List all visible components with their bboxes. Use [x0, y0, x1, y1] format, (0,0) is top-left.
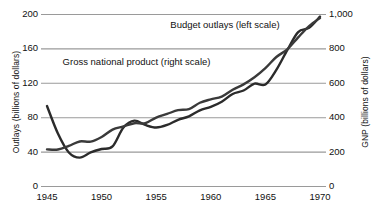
y-axis-right-tick: 200 [329, 146, 369, 157]
y-axis-left-tick: 0 [4, 180, 38, 191]
x-axis-tick: 1965 [245, 191, 285, 202]
plot-area [0, 0, 382, 216]
y-axis-left-tick: 160 [4, 42, 38, 53]
y-axis-left-tick: 40 [4, 146, 38, 157]
chart-annotation-1: Gross national product (right scale) [63, 56, 211, 67]
series-line-1 [47, 18, 320, 150]
x-axis-tick: 1960 [191, 191, 231, 202]
x-axis-tick: 1950 [82, 191, 122, 202]
y-axis-right-tick: 800 [329, 42, 369, 53]
y-axis-right-tick: 400 [329, 111, 369, 122]
y-axis-left-tick: 120 [4, 77, 38, 88]
y-axis-right-tick: 1,000 [329, 8, 369, 19]
series-line-0 [47, 17, 320, 158]
y-axis-left-tick: 200 [4, 8, 38, 19]
x-axis-tick: 1955 [136, 191, 176, 202]
x-axis-tick: 1945 [27, 191, 67, 202]
chart-container: Outlays (billions of dollars) GNP (billi… [0, 0, 382, 216]
y-axis-left-tick: 80 [4, 111, 38, 122]
x-axis-tick: 1970 [300, 191, 340, 202]
y-axis-right-tick: 600 [329, 77, 369, 88]
y-axis-right-tick: 0 [329, 180, 369, 191]
chart-annotation-0: Budget outlays (left scale) [170, 19, 279, 30]
